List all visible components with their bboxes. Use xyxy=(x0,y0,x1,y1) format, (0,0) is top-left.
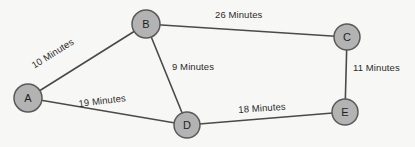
node-a[interactable]: A xyxy=(14,84,42,112)
edge-label-c-e: 11 Minutes xyxy=(353,63,400,73)
edge-label-b-c: 26 Minutes xyxy=(215,10,262,20)
edge-group xyxy=(28,24,347,125)
node-e-label: E xyxy=(341,106,349,118)
node-b[interactable]: B xyxy=(132,10,160,38)
node-d[interactable]: D xyxy=(174,112,200,138)
edge-b-c xyxy=(146,24,347,37)
node-c-label: C xyxy=(343,31,351,43)
node-e[interactable]: E xyxy=(332,99,358,125)
node-d-label: D xyxy=(183,119,191,131)
graph-canvas: A B C D E xyxy=(0,0,415,147)
edge-b-d xyxy=(146,24,187,125)
graph-diagram: A B C D E 10 Minutes 26 Minutes 9 Minute… xyxy=(0,0,415,147)
node-a-label: A xyxy=(24,92,32,104)
node-b-label: B xyxy=(142,18,150,30)
node-c[interactable]: C xyxy=(334,24,360,50)
edge-d-e xyxy=(187,112,345,125)
edge-label-b-d: 9 Minutes xyxy=(172,62,214,72)
